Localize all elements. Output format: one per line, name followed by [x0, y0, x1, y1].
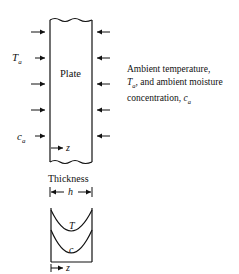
- z-label-plate: z: [66, 142, 70, 154]
- ambient-caption: Ambient temperature, Ta, and ambient moi…: [127, 63, 223, 108]
- z-label-bottom: z: [66, 262, 70, 274]
- thickness-symbol: h: [68, 186, 73, 198]
- moisture-profile-label: c: [69, 244, 73, 256]
- plate-diagram: [0, 0, 239, 274]
- ambient-temperature-label: Ta: [12, 51, 22, 68]
- thickness-label: Thickness: [48, 173, 89, 185]
- temperature-profile-label: T: [69, 220, 75, 232]
- caption-line-2: Ta, and ambient moisture: [127, 76, 223, 92]
- z-axis-arrow-bottom: [51, 264, 63, 272]
- caption-line-1: Ambient temperature,: [127, 63, 223, 76]
- ambient-arrows-right: [97, 32, 110, 136]
- plate: [50, 19, 92, 164]
- ambient-moisture-label: ca: [17, 130, 25, 147]
- plate-label: Plate: [60, 68, 81, 80]
- ambient-arrows-left: [31, 32, 45, 136]
- caption-line-3: concentration, ca: [127, 92, 223, 108]
